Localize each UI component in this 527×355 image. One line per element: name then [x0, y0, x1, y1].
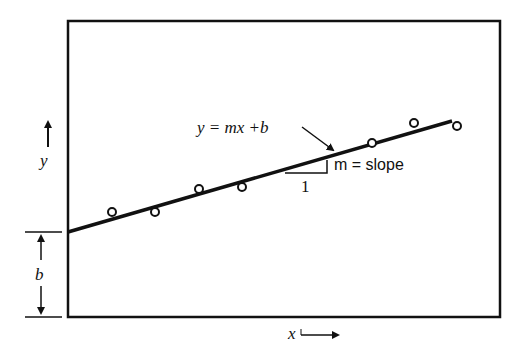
data-point: [195, 185, 203, 193]
equation-arrow-icon: [302, 127, 333, 150]
data-point: [238, 183, 246, 191]
data-point: [368, 139, 376, 147]
intercept-label: b: [35, 265, 44, 284]
data-point: [108, 208, 116, 216]
data-point: [410, 119, 418, 127]
diagram-canvas: y = mx +b m = slope 1 y b x: [0, 0, 527, 355]
run-label: 1: [301, 177, 310, 196]
fit-line: [68, 121, 452, 232]
data-point: [151, 208, 159, 216]
data-point: [453, 122, 461, 130]
x-axis-label: x: [287, 324, 296, 343]
equation-label: y = mx +b: [195, 118, 269, 137]
slope-label: m = slope: [334, 156, 404, 173]
y-axis-label: y: [38, 151, 48, 170]
